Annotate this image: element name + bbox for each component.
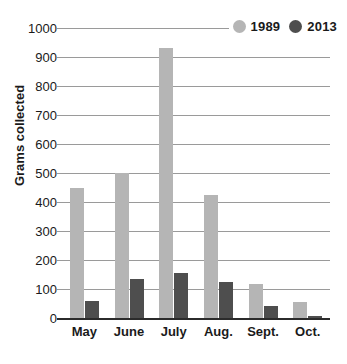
y-axis-tick-label: 500 [35, 166, 57, 181]
bar-group [62, 28, 107, 318]
bar-1989-oct [293, 302, 307, 318]
bar-2013-july [174, 273, 188, 318]
y-axis-tick-label: 300 [35, 224, 57, 239]
bar-2013-june [130, 279, 144, 318]
bar-2013-aug [219, 282, 233, 318]
bar-group [196, 28, 241, 318]
legend-item-1989: 1989 [233, 19, 281, 34]
bar-group [107, 28, 152, 318]
legend-swatch-1989-icon [233, 20, 246, 33]
y-axis-tick-label: 700 [35, 108, 57, 123]
legend-label-1989: 1989 [251, 19, 281, 34]
bar-1989-june [115, 173, 129, 318]
bar-1989-may [70, 188, 84, 319]
bar-chart: 1989 2013 Grams collected 01002003004005… [0, 0, 347, 364]
x-axis-tick-label: Oct. [285, 324, 330, 339]
y-axis-tick-label: 900 [35, 50, 57, 65]
bar-group [151, 28, 196, 318]
legend-label-2013: 2013 [307, 19, 337, 34]
bar-1989-july [159, 48, 173, 318]
x-axis-tick-labels: MayJuneJulyAug.Sept.Oct. [62, 324, 330, 339]
y-axis-tick-label: 1000 [28, 21, 57, 36]
x-axis-tick-label: May [62, 324, 107, 339]
y-axis-tick-label: 200 [35, 253, 57, 268]
bar-group [241, 28, 286, 318]
bar-2013-may [85, 301, 99, 318]
y-axis-tick-label: 0 [50, 311, 57, 326]
legend-swatch-2013-icon [289, 20, 302, 33]
legend-item-2013: 2013 [289, 19, 337, 34]
x-axis-line [57, 318, 330, 320]
x-axis-tick-label: June [107, 324, 152, 339]
x-axis-tick-label: Aug. [196, 324, 241, 339]
x-axis-tick-label: July [151, 324, 196, 339]
y-axis-tick-labels: 01002003004005006007008009001000 [0, 28, 57, 318]
bar-group [285, 28, 330, 318]
y-axis-tick-label: 600 [35, 137, 57, 152]
y-axis-tick-label: 800 [35, 79, 57, 94]
bar-2013-oct [308, 316, 322, 318]
y-axis-tick-label: 100 [35, 282, 57, 297]
x-axis-tick-label: Sept. [241, 324, 286, 339]
chart-legend: 1989 2013 [229, 19, 337, 34]
bar-1989-sept [249, 284, 263, 318]
bar-2013-sept [264, 306, 278, 318]
y-axis-tick-label: 400 [35, 195, 57, 210]
bar-1989-aug [204, 195, 218, 318]
bars-layer [62, 28, 330, 318]
